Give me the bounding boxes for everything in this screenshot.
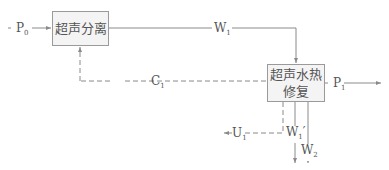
u1-line (245, 102, 283, 133)
ultrasonic-hydrothermal-repair-box: 超声水热 修复 (267, 64, 325, 102)
ultrasonic-separation-box: 超声分离 (52, 11, 109, 46)
label-u1: U1 (232, 127, 247, 144)
w1-flow-line-2 (232, 28, 296, 63)
label-w1: W1 (214, 22, 231, 39)
label-c1: C1 (151, 75, 165, 92)
repair-label-line2: 修复 (283, 83, 309, 100)
label-p0: P0 (16, 22, 29, 39)
label-w2: W2 (301, 144, 318, 161)
label-p1: P1 (333, 77, 346, 94)
label-w1-prime: W1′ (286, 126, 306, 143)
separation-label: 超声分离 (55, 20, 107, 37)
repair-label-line1: 超声水热 (270, 66, 322, 83)
